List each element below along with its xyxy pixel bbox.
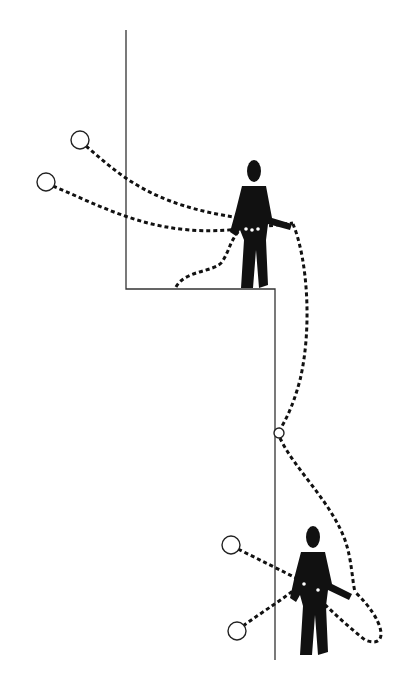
- worker-top-icon: [230, 160, 292, 288]
- anchor-ring-icon: [37, 173, 55, 191]
- worker-bottom-icon: [290, 526, 352, 655]
- building-outline: [126, 30, 275, 660]
- intermediate-anchor-icon: [274, 428, 284, 438]
- anchor-ring-icon: [222, 536, 240, 554]
- diagram-canvas: [0, 0, 420, 681]
- lanyards-bottom: [238, 549, 300, 626]
- rope-access-diagram: [0, 0, 420, 681]
- anchor-ring-icon: [228, 622, 246, 640]
- anchor-ring-icon: [71, 131, 89, 149]
